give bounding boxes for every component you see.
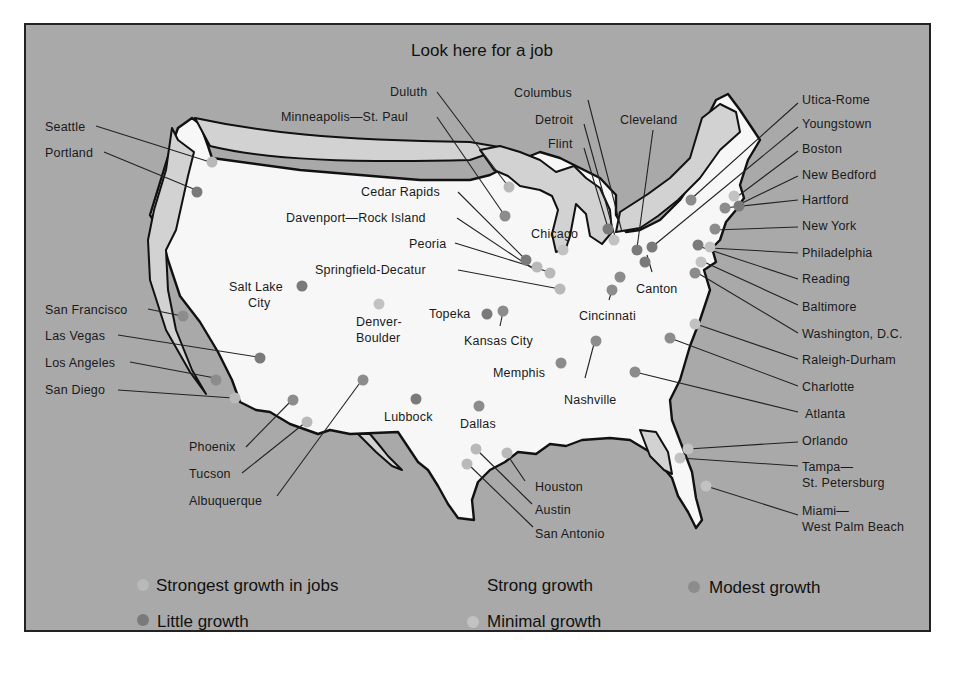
dot-cincinnati[interactable] — [607, 285, 618, 296]
dot-phoenix[interactable] — [288, 395, 299, 406]
label-charlotte: Charlotte — [802, 380, 855, 394]
label-youngstown: Youngstown — [802, 117, 872, 131]
dot-dallas[interactable] — [474, 401, 485, 412]
label-denver-2: Boulder — [356, 331, 401, 345]
label-kansas-city: Kansas City — [464, 334, 533, 348]
label-topeka: Topeka — [429, 307, 471, 321]
label-raleigh-durham: Raleigh-Durham — [802, 353, 896, 367]
dot-austin[interactable] — [471, 444, 482, 455]
dot-los-angeles[interactable] — [211, 375, 222, 386]
dot-atlanta[interactable] — [630, 367, 641, 378]
dot-springfield[interactable] — [555, 284, 566, 295]
dot-charlotte[interactable] — [665, 333, 676, 344]
dot-davenport[interactable] — [532, 262, 543, 273]
label-lubbock: Lubbock — [384, 410, 433, 424]
dot-cleveland[interactable] — [632, 245, 643, 256]
label-denver-1: Denver- — [356, 315, 402, 329]
dot-canton[interactable] — [640, 257, 651, 268]
dot-portland[interactable] — [192, 187, 203, 198]
label-las-vegas: Las Vegas — [45, 329, 105, 343]
label-springfield: Springfield-Decatur — [315, 263, 426, 277]
dot-tucson[interactable] — [302, 417, 313, 428]
dot-hartford[interactable] — [720, 203, 731, 214]
us-jobs-map: Look here for a job — [0, 0, 962, 676]
dot-baltimore[interactable] — [696, 257, 707, 268]
dot-kansas-city[interactable] — [498, 306, 509, 317]
label-orlando: Orlando — [802, 434, 848, 448]
label-davenport: Davenport—Rock Island — [286, 211, 426, 225]
label-albuquerque: Albuquerque — [189, 494, 262, 508]
dot-cedar-rapids[interactable] — [521, 255, 532, 266]
dot-boston[interactable] — [729, 191, 740, 202]
dot-columbus[interactable] — [615, 272, 626, 283]
label-detroit: Detroit — [535, 113, 574, 127]
label-columbus: Columbus — [514, 86, 572, 100]
label-cedar-rapids: Cedar Rapids — [361, 185, 440, 199]
label-san-antonio: San Antonio — [535, 527, 605, 541]
label-new-bedford: New Bedford — [802, 168, 876, 182]
label-tampa-1: Tampa— — [802, 460, 854, 474]
dot-denver-boulder[interactable] — [374, 299, 385, 310]
legend-dot-strongest — [137, 579, 149, 591]
label-houston: Houston — [535, 480, 583, 494]
label-seattle: Seattle — [45, 120, 85, 134]
dot-new-york[interactable] — [710, 224, 721, 235]
dot-memphis[interactable] — [556, 358, 567, 369]
dot-reading[interactable] — [693, 240, 704, 251]
dot-seattle[interactable] — [207, 157, 218, 168]
dot-minneapolis[interactable] — [500, 211, 511, 222]
dot-san-diego[interactable] — [230, 393, 241, 404]
northern-border-strip — [195, 118, 505, 161]
legend-dot-minimal — [467, 616, 479, 628]
dot-new-bedford[interactable] — [734, 201, 745, 212]
label-baltimore: Baltimore — [802, 300, 857, 314]
label-new-york: New York — [802, 219, 857, 233]
label-hartford: Hartford — [802, 193, 849, 207]
legend-label-strong: Strong growth — [487, 576, 593, 595]
dot-raleigh-durham[interactable] — [690, 319, 701, 330]
dot-miami[interactable] — [701, 481, 712, 492]
label-tucson: Tucson — [189, 467, 231, 481]
dot-detroit[interactable] — [603, 224, 614, 235]
dot-las-vegas[interactable] — [255, 353, 266, 364]
dot-tampa[interactable] — [675, 453, 686, 464]
dot-nashville[interactable] — [591, 336, 602, 347]
dot-san-antonio[interactable] — [462, 459, 473, 470]
legend-dot-modest — [688, 581, 700, 593]
dot-philadelphia[interactable] — [705, 242, 716, 253]
legend-label-strongest: Strongest growth in jobs — [156, 576, 338, 595]
legend-label-little: Little growth — [157, 612, 249, 631]
label-duluth: Duluth — [390, 85, 427, 99]
label-phoenix: Phoenix — [189, 440, 236, 454]
dot-salt-lake-city[interactable] — [297, 281, 308, 292]
dot-houston[interactable] — [502, 448, 513, 459]
label-reading: Reading — [802, 272, 850, 286]
label-cleveland: Cleveland — [620, 113, 677, 127]
label-minneapolis: Minneapolis—St. Paul — [281, 110, 408, 124]
label-salt-lake-city-2: City — [248, 296, 271, 310]
dot-utica-rome[interactable] — [686, 195, 697, 206]
dot-peoria[interactable] — [545, 268, 556, 279]
label-miami-2: West Palm Beach — [802, 520, 904, 534]
dot-orlando[interactable] — [683, 444, 694, 455]
label-san-diego: San Diego — [45, 383, 105, 397]
legend: Strongest growth in jobs Strong growth M… — [137, 576, 821, 631]
dot-albuquerque[interactable] — [358, 375, 369, 386]
label-nashville: Nashville — [564, 393, 617, 407]
label-san-francisco: San Francisco — [45, 303, 128, 317]
dot-chicago[interactable] — [558, 245, 569, 256]
dot-san-francisco[interactable] — [178, 311, 189, 322]
dot-lubbock[interactable] — [411, 394, 422, 405]
label-cincinnati: Cincinnati — [579, 309, 636, 323]
label-boston: Boston — [802, 142, 842, 156]
dot-topeka[interactable] — [482, 309, 493, 320]
label-chicago: Chicago — [531, 227, 578, 241]
label-philadelphia: Philadelphia — [802, 246, 873, 260]
label-los-angeles: Los Angeles — [45, 356, 115, 370]
dot-youngstown[interactable] — [647, 242, 658, 253]
label-peoria: Peoria — [409, 237, 446, 251]
dot-flint[interactable] — [609, 235, 620, 246]
dot-washington[interactable] — [690, 268, 701, 279]
label-memphis: Memphis — [493, 366, 545, 380]
dot-duluth[interactable] — [504, 182, 515, 193]
